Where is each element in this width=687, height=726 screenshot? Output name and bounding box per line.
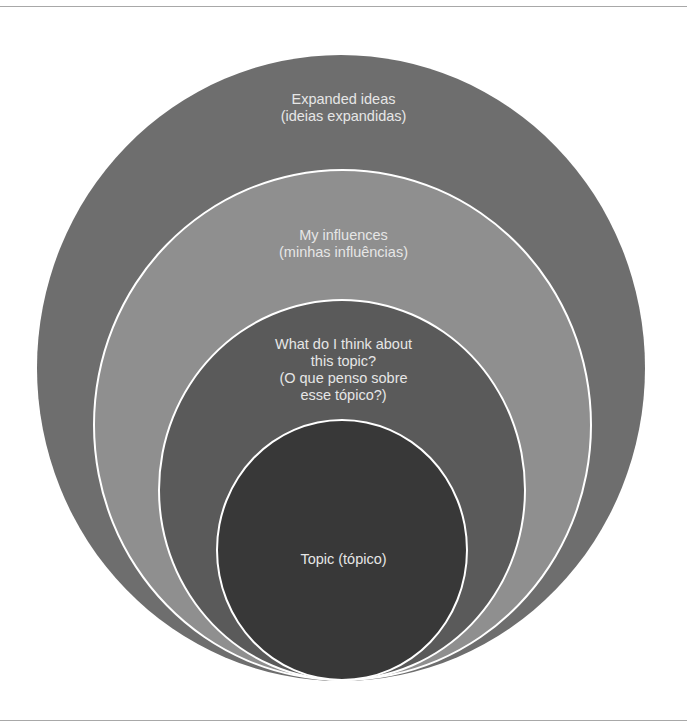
label-line: What do I think about [0,336,687,353]
label-line: (O que penso sobre [0,370,687,387]
label-line: esse tópico?) [0,387,687,404]
label-line: this topic? [0,353,687,370]
label-line: Expanded ideas [0,91,687,108]
circle-topic [216,419,468,681]
label-expanded-ideas: Expanded ideas (ideias expandidas) [0,91,687,125]
label-line: (ideias expandidas) [0,108,687,125]
label-line: My influences [0,227,687,244]
label-topic: Topic (tópico) [0,551,687,568]
label-line: Topic (tópico) [0,551,687,568]
bottom-divider [0,720,687,721]
label-line: (minhas influências) [0,244,687,261]
label-what-do-i-think: What do I think about this topic? (O que… [0,336,687,404]
nested-circles-diagram: Expanded ideas (ideias expandidas) My in… [0,0,687,726]
label-my-influences: My influences (minhas influências) [0,227,687,261]
